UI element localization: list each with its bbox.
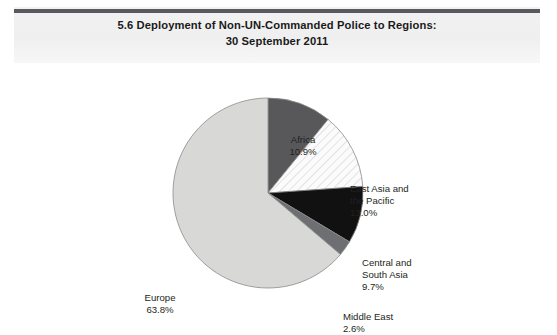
pie-label-central-south-asia-name-line-2: South Asia (362, 269, 412, 281)
pie-label-europe-name: Europe (128, 292, 192, 304)
pie-label-middle-east-value: 2.6% (343, 323, 393, 335)
page-title: 5.6 Deployment of Non-UN-Commanded Polic… (14, 18, 540, 49)
pie-label-europe-value: 63.8% (128, 304, 192, 316)
pie-label-middle-east-name: Middle East (343, 311, 393, 323)
pie-label-central-south-asia-value: 9.7% (362, 281, 412, 293)
pie-label-east-asia-pacific: East Asia and the Pacific 13.0% (350, 183, 409, 218)
page-title-line-1: 5.6 Deployment of Non-UN-Commanded Polic… (14, 18, 540, 34)
pie-label-central-south-asia: Central and South Asia 9.7% (362, 257, 412, 292)
pie-label-europe: Europe 63.8% (128, 292, 192, 316)
pie-chart (0, 63, 557, 319)
pie-label-east-asia-pacific-value: 13.0% (350, 207, 409, 219)
pie-label-east-asia-pacific-name-line-2: the Pacific (350, 195, 409, 207)
pie-label-east-asia-pacific-name-line-1: East Asia and (350, 183, 409, 195)
pie-label-africa: Africa 10.9% (262, 134, 344, 158)
header-divider-rule (14, 9, 540, 13)
pie-label-central-south-asia-name-line-1: Central and (362, 257, 412, 269)
pie-label-africa-value: 10.9% (262, 146, 344, 158)
pie-label-africa-name: Africa (262, 134, 344, 146)
page-title-line-2: 30 September 2011 (14, 34, 540, 50)
pie-label-middle-east: Middle East 2.6% (343, 311, 393, 335)
pie-slice-group (173, 98, 363, 288)
chart-plot-area: Africa 10.9% East Asia and the Pacific 1… (0, 63, 557, 319)
